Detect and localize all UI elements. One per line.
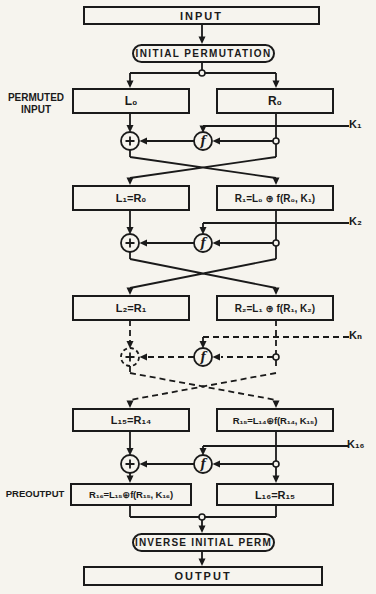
output-box: OUTPUT <box>83 566 323 586</box>
permuted-input-label-line2: INPUT <box>4 104 68 116</box>
flow-lines-dashed <box>130 320 349 400</box>
register-r16-box: R₁₆=L₁₅⊕f(R₁₅, K₁₆) <box>70 483 192 506</box>
permuted-input-label-line1: PERMUTED <box>4 92 68 104</box>
register-r15-box: R₁₅=L₁₄⊕f(R₁₄, K₁₅) <box>216 408 334 432</box>
register-r1-box: R₁=L₀ ⊕ f(R₀, K₁) <box>216 185 334 211</box>
key-k1-label: K₁ <box>349 118 362 131</box>
register-l1-box: L₁=R₀ <box>72 185 190 211</box>
f-function-nodes <box>194 132 212 473</box>
key-k2-label: K₂ <box>349 215 362 228</box>
register-r0-box: R₀ <box>216 88 334 114</box>
f-function-label: f <box>194 455 212 474</box>
f-function-label: f <box>194 348 212 367</box>
initial-permutation-box: INITIAL PERMUTATION <box>132 44 275 63</box>
register-r2-box: R₂=L₁ ⊕ f(R₁, K₂) <box>216 295 334 321</box>
inverse-initial-perm-box: INVERSE INITIAL PERM <box>132 533 275 552</box>
key-k16-label: K₁₆ <box>347 438 365 451</box>
permuted-input-label: PERMUTED INPUT <box>4 92 68 116</box>
preoutput-label: PREOUTPUT <box>1 488 69 499</box>
register-l2-box: L₂=R₁ <box>72 295 190 321</box>
register-l0-box: L₀ <box>72 88 190 114</box>
register-l16-box: L₁₆=R₁₅ <box>216 483 334 506</box>
key-kn-label: Kₙ <box>349 329 362 342</box>
register-l15-box: L₁₅=R₁₄ <box>72 408 190 432</box>
f-function-label: f <box>194 234 212 253</box>
des-feistel-diagram: INPUT INITIAL PERMUTATION L₀ R₀ L₁=R₀ R₁… <box>0 0 376 594</box>
f-function-label: f <box>194 132 212 151</box>
input-box: INPUT <box>83 6 320 25</box>
